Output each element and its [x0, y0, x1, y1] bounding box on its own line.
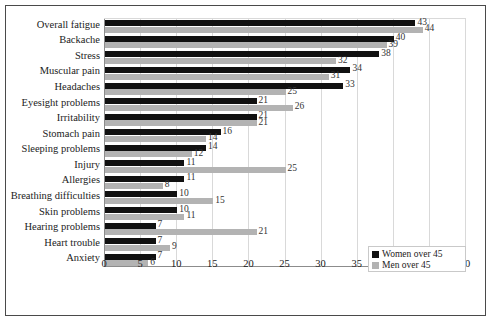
bar-men: [105, 74, 329, 80]
x-tick-label-35: 35: [351, 258, 362, 269]
category-label: Muscular pain: [40, 66, 100, 77]
x-tick-label-5: 5: [137, 258, 142, 269]
bar-women: [105, 129, 221, 135]
bar-value-label: 34: [352, 64, 362, 74]
bar-value-label: 32: [338, 56, 348, 66]
bar-value-label: 10: [179, 189, 189, 199]
bar-value-label: 8: [165, 180, 170, 190]
category-label: Eyesight problems: [22, 98, 100, 109]
legend-swatch-icon: [372, 262, 379, 269]
bar-women: [105, 67, 350, 73]
bar-value-label: 6: [150, 258, 155, 268]
legend-item: Women over 45: [372, 249, 462, 260]
bar-value-label: 21: [259, 227, 269, 237]
bar-men: [105, 58, 336, 64]
bar-women: [105, 191, 177, 197]
category-label: Injury: [74, 160, 100, 171]
category-label: Skin problems: [39, 207, 100, 218]
chart-frame: 4344403938323431332521262121161414121125…: [5, 5, 486, 316]
legend-label: Women over 45: [382, 250, 442, 260]
bar-value-label: 11: [186, 211, 195, 221]
bar-women: [105, 83, 343, 89]
bar-value-label: 15: [215, 196, 225, 206]
category-label: Sleeping problems: [22, 144, 100, 155]
bar-women: [105, 20, 415, 26]
bar-men: [105, 136, 206, 142]
bar-men: [105, 198, 213, 204]
gridline-45: [429, 19, 430, 267]
bar-value-label: 21: [259, 96, 269, 106]
x-tick-label-0: 0: [101, 258, 106, 269]
bar-men: [105, 183, 163, 189]
bar-women: [105, 114, 257, 120]
bar-women: [105, 145, 206, 151]
bar-value-label: 44: [425, 24, 435, 34]
category-label: Stomach pain: [43, 129, 100, 140]
bar-men: [105, 42, 387, 48]
bar-value-label: 7: [158, 236, 163, 246]
bar-men: [105, 229, 257, 235]
x-tick-label-25: 25: [279, 258, 290, 269]
bar-men: [105, 120, 257, 126]
bar-value-label: 14: [208, 142, 218, 152]
legend-label: Men over 45: [382, 261, 431, 271]
bar-men: [105, 151, 192, 157]
bar-value-label: 25: [288, 164, 298, 174]
category-label: Allergies: [62, 175, 100, 186]
bar-value-label: 7: [158, 220, 163, 230]
gridline-40: [393, 19, 394, 267]
category-label: Backache: [59, 35, 100, 46]
bar-value-label: 33: [345, 80, 355, 90]
gridline-50: [465, 19, 466, 267]
bar-men: [105, 214, 184, 220]
bar-value-label: 16: [223, 127, 233, 137]
x-tick-label-20: 20: [243, 258, 254, 269]
category-label: Hearing problems: [24, 222, 100, 233]
plot-area: 4344403938323431332521262121161414121125…: [104, 18, 466, 267]
category-label: Stress: [75, 51, 100, 62]
bar-women: [105, 238, 156, 244]
category-label: Anxiety: [66, 253, 100, 264]
bar-women: [105, 160, 184, 166]
chart-legend: Women over 45Men over 45: [368, 246, 466, 272]
category-label: Overall fatigue: [37, 20, 100, 31]
x-tick-label-10: 10: [171, 258, 182, 269]
bar-value-label: 11: [186, 158, 195, 168]
x-tick-label-15: 15: [207, 258, 218, 269]
bar-women: [105, 98, 257, 104]
bar-value-label: 26: [295, 102, 305, 112]
bar-women: [105, 176, 184, 182]
category-label: Breathing difficulties: [11, 191, 100, 202]
bar-women: [105, 36, 394, 42]
bar-value-label: 9: [172, 242, 177, 252]
bar-value-label: 25: [288, 87, 298, 97]
bar-value-label: 11: [186, 173, 195, 183]
legend-item: Men over 45: [372, 260, 462, 271]
bar-women: [105, 223, 156, 229]
legend-swatch-icon: [372, 251, 379, 258]
bar-value-label: 38: [381, 49, 391, 59]
category-label: Headaches: [55, 82, 100, 93]
x-tick-label-30: 30: [315, 258, 326, 269]
category-label: Irritability: [57, 113, 100, 124]
category-label: Heart trouble: [44, 238, 100, 249]
bar-women: [105, 207, 177, 213]
bar-women: [105, 254, 156, 260]
bar-men: [105, 27, 423, 33]
bar-value-label: 31: [331, 71, 341, 81]
bar-value-label: 21: [259, 118, 269, 128]
bar-value-label: 7: [158, 251, 163, 261]
